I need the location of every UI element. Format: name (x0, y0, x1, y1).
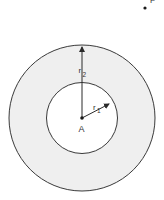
center-point (80, 116, 84, 120)
inner-radius-subscript: 1 (97, 107, 101, 114)
center-label: A (79, 124, 85, 134)
outer-radius-subscript: 2 (83, 71, 87, 78)
annulus-diagram: A P r 2 r 1 (0, 0, 164, 200)
outer-radius-label: r (79, 66, 82, 75)
inner-radius-label: r (93, 103, 96, 112)
point-p-label: P (150, 0, 155, 5)
point-p (143, 6, 146, 9)
